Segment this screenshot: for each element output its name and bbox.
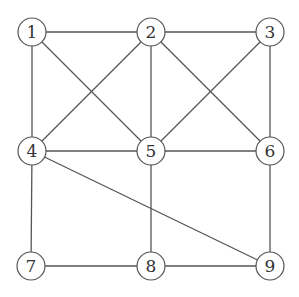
node-5: 5	[137, 137, 165, 165]
node-label: 7	[26, 256, 37, 276]
node-label: 5	[146, 141, 157, 161]
node-7: 7	[17, 252, 45, 280]
node-label: 2	[146, 22, 157, 42]
node-label: 3	[265, 22, 276, 42]
graph-svg: 123456789	[0, 0, 299, 297]
node-label: 8	[146, 256, 157, 276]
node-8: 8	[137, 252, 165, 280]
node-label: 6	[265, 141, 276, 161]
node-2: 2	[137, 18, 165, 46]
node-3: 3	[256, 18, 284, 46]
node-6: 6	[256, 137, 284, 165]
edge-4-7	[31, 151, 32, 266]
node-9: 9	[256, 252, 284, 280]
node-label: 4	[27, 141, 38, 161]
graph-diagram: 123456789	[0, 0, 299, 297]
node-label: 1	[27, 22, 38, 42]
node-1: 1	[18, 18, 46, 46]
node-4: 4	[18, 137, 46, 165]
node-label: 9	[265, 256, 276, 276]
